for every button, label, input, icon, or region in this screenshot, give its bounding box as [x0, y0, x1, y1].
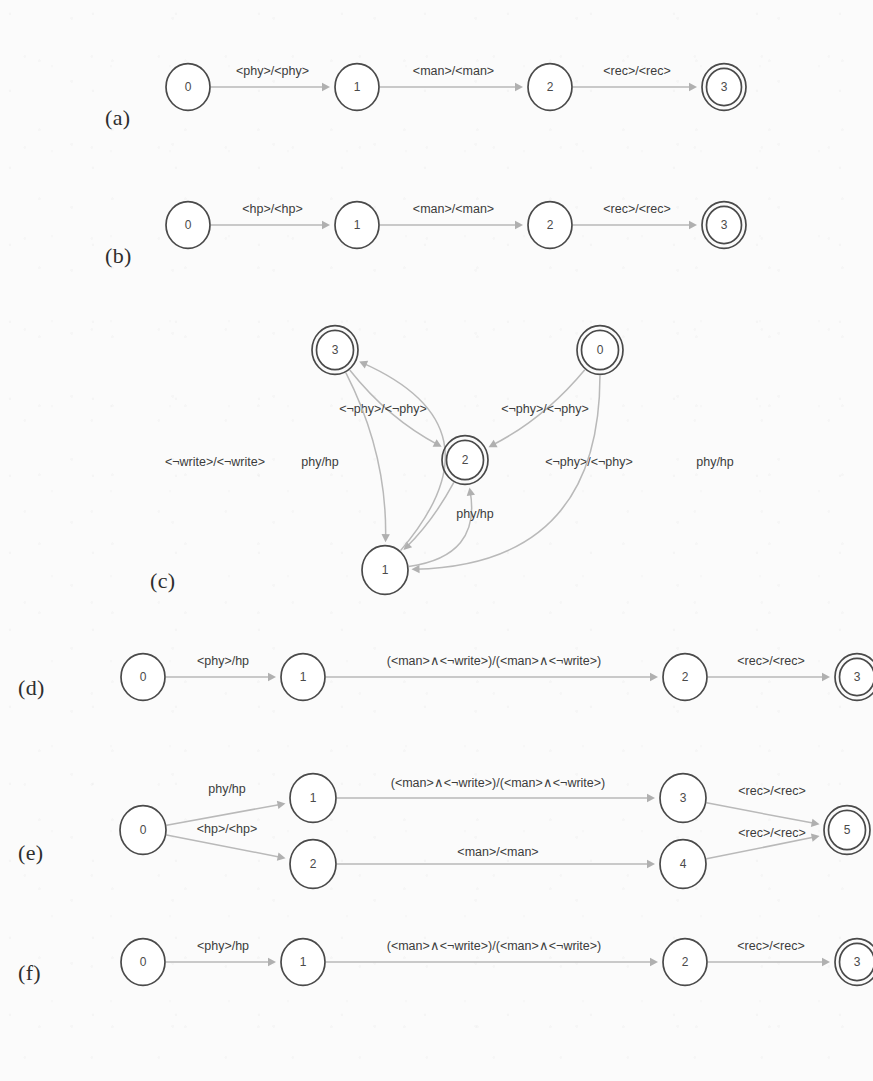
- transition-label: <rec>/<rec>: [603, 64, 670, 78]
- transition-label: phy/hp: [301, 455, 339, 469]
- state-label: 4: [680, 857, 687, 871]
- automaton-panel-b: <hp>/<hp><man>/<man><rec>/<rec>0123: [100, 188, 860, 268]
- edge-arrowhead: [650, 958, 658, 966]
- edge-arrowhead: [811, 819, 820, 827]
- automaton-panel-a: <phy>/<phy><man>/<man><rec>/<rec>0123: [100, 50, 860, 130]
- edge-arrowhead: [277, 801, 286, 809]
- transition-edge[interactable]: [167, 835, 282, 857]
- edge-arrowhead: [268, 958, 276, 966]
- state-node-3[interactable]: 3: [702, 64, 746, 111]
- state-label: 2: [682, 670, 689, 684]
- state-label: 2: [547, 80, 554, 94]
- state-node-0[interactable]: 0: [166, 64, 210, 111]
- state-node-2[interactable]: 2: [663, 654, 707, 701]
- state-node-1[interactable]: 1: [335, 64, 379, 111]
- state-label: 2: [310, 857, 317, 871]
- transition-label: <rec>/<rec>: [738, 784, 805, 798]
- state-node-1[interactable]: 1: [362, 546, 408, 595]
- transition-label: <hp>/<hp>: [242, 202, 302, 216]
- state-node-0[interactable]: 0: [577, 326, 623, 375]
- state-node-3[interactable]: 3: [835, 654, 873, 701]
- state-label: 2: [682, 955, 689, 969]
- state-node-3[interactable]: 3: [660, 774, 706, 823]
- transition-label: <hp>/<hp>: [197, 822, 257, 836]
- transition-label: <man>/<man>: [413, 64, 494, 78]
- transition-label: <¬write>/<¬write>: [165, 455, 265, 469]
- state-node-0[interactable]: 0: [166, 202, 210, 249]
- transition-edge[interactable]: [346, 373, 386, 539]
- transition-label: <phy>/hp: [197, 654, 249, 668]
- edge-arrowhead: [811, 833, 820, 841]
- transition-label: (<man>∧<¬write>)/(<man>∧<¬write>): [387, 654, 602, 668]
- state-node-1[interactable]: 1: [335, 202, 379, 249]
- state-node-0[interactable]: 0: [121, 939, 165, 986]
- state-label: 1: [354, 80, 361, 94]
- state-label: 3: [721, 218, 728, 232]
- state-label: 3: [332, 343, 339, 357]
- state-label: 2: [462, 453, 469, 467]
- state-label: 5: [844, 823, 851, 837]
- edge-arrowhead: [822, 673, 830, 681]
- state-node-4[interactable]: 4: [660, 840, 706, 889]
- state-label: 0: [185, 80, 192, 94]
- edge-arrowhead: [381, 534, 389, 542]
- state-node-2[interactable]: 2: [528, 202, 572, 249]
- panel-caption-f: (f): [18, 960, 41, 986]
- edge-arrowhead: [322, 221, 330, 229]
- transition-label: <man>/<man>: [413, 202, 494, 216]
- state-label: 1: [300, 955, 307, 969]
- state-label: 0: [140, 670, 147, 684]
- transition-label: phy/hp: [456, 507, 494, 521]
- state-node-5[interactable]: 5: [824, 806, 870, 855]
- state-label: 1: [382, 563, 389, 577]
- state-node-1[interactable]: 1: [281, 939, 325, 986]
- transition-label: (<man>∧<¬write>)/(<man>∧<¬write>): [391, 776, 606, 790]
- transition-label: <phy>/hp: [197, 939, 249, 953]
- edge-arrowhead: [650, 673, 658, 681]
- transition-label: phy/hp: [696, 455, 734, 469]
- transition-label: <rec>/<rec>: [603, 202, 670, 216]
- state-node-0[interactable]: 0: [121, 654, 165, 701]
- edge-arrowhead: [268, 673, 276, 681]
- transition-edge[interactable]: [406, 482, 454, 547]
- state-label: 0: [185, 218, 192, 232]
- transition-label: <man>/<man>: [457, 845, 538, 859]
- state-node-1[interactable]: 1: [281, 654, 325, 701]
- state-label: 0: [597, 343, 604, 357]
- transition-label: (<man>∧<¬write>)/(<man>∧<¬write>): [387, 939, 602, 953]
- state-label: 1: [354, 218, 361, 232]
- state-node-3[interactable]: 3: [835, 939, 873, 986]
- transition-label: <rec>/<rec>: [737, 939, 804, 953]
- state-label: 0: [140, 823, 147, 837]
- transition-label: <phy>/<phy>: [236, 64, 309, 78]
- transition-edge[interactable]: [707, 803, 816, 824]
- state-node-0[interactable]: 0: [120, 806, 166, 855]
- state-node-2[interactable]: 2: [528, 64, 572, 111]
- edge-arrowhead: [515, 221, 523, 229]
- edge-arrowhead: [647, 860, 655, 868]
- state-label: 3: [721, 80, 728, 94]
- state-label: 3: [680, 791, 687, 805]
- state-node-2[interactable]: 2: [663, 939, 707, 986]
- panel-caption-b: (b): [105, 243, 132, 269]
- automata-figure: <phy>/<phy><man>/<man><rec>/<rec>0123(a)…: [0, 0, 873, 1081]
- state-label: 0: [140, 955, 147, 969]
- state-label: 3: [854, 955, 861, 969]
- state-node-2[interactable]: 2: [442, 436, 488, 485]
- state-label: 2: [547, 218, 554, 232]
- state-node-1[interactable]: 1: [290, 774, 336, 823]
- edge-arrowhead: [322, 83, 330, 91]
- state-node-3[interactable]: 3: [312, 326, 358, 375]
- transition-edge[interactable]: [362, 363, 445, 551]
- state-node-2[interactable]: 2: [290, 840, 336, 889]
- panel-caption-e: (e): [18, 840, 43, 866]
- panel-caption-c: (c): [150, 568, 175, 594]
- edge-arrowhead: [277, 853, 286, 861]
- automaton-panel-f: <phy>/hp(<man>∧<¬write>)/(<man>∧<¬write>…: [75, 925, 865, 1005]
- state-label: 1: [300, 670, 307, 684]
- transition-label: <¬phy>/<¬phy>: [339, 402, 427, 416]
- transition-label: <rec>/<rec>: [737, 654, 804, 668]
- state-node-3[interactable]: 3: [702, 202, 746, 249]
- transition-label: phy/hp: [208, 782, 246, 796]
- panel-caption-d: (d): [18, 675, 45, 701]
